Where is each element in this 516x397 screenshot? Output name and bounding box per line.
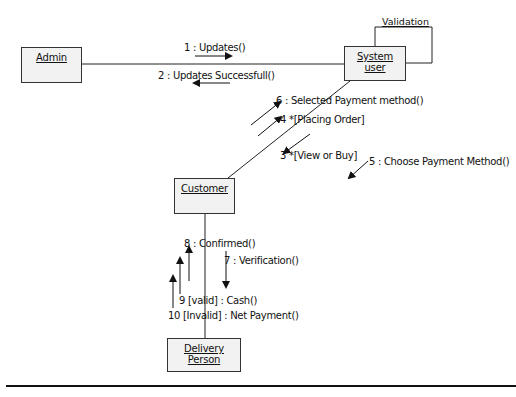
msg-3-label: 3 *[View or Buy] xyxy=(280,150,357,161)
msg-10-label: 10 [Invalid] : Net Payment() xyxy=(168,310,299,321)
object-label: Admin xyxy=(22,48,81,63)
object-customer[interactable]: Customer xyxy=(174,178,235,214)
object-label: System user xyxy=(345,47,405,73)
self-loop-label: Validation xyxy=(382,16,429,27)
msg-4-arrow xyxy=(258,117,281,136)
msg-7-label: 7 : Verification() xyxy=(224,255,299,266)
object-label: Delivery Person xyxy=(168,339,240,365)
object-label: Customer xyxy=(175,179,234,194)
object-system-user[interactable]: System user xyxy=(344,46,406,81)
object-admin[interactable]: Admin xyxy=(21,47,82,83)
msg-1-label: 1 : Updates() xyxy=(184,42,245,53)
msg-8-label: 8 : Confirmed() xyxy=(184,238,255,249)
msg-5-label: 5 : Choose Payment Method() xyxy=(369,156,509,167)
msg-9-label: 9 [valid] : Cash() xyxy=(179,295,257,306)
msg-2-label: 2 : Updates Successfull() xyxy=(158,70,275,81)
msg-4-label: 4 *[Placing Order] xyxy=(280,114,364,125)
msg-6-label: 6 : Selected Payment method() xyxy=(276,95,423,106)
msg-5-arrow xyxy=(349,161,368,178)
object-delivery-person[interactable]: Delivery Person xyxy=(167,338,241,372)
